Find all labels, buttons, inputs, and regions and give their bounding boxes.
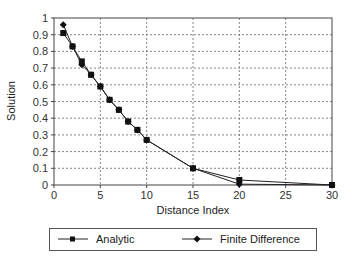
x-tick-label: 25: [280, 189, 292, 201]
x-axis-title: Distance Index: [157, 204, 230, 216]
y-tick-label: 0.5: [33, 96, 48, 108]
series-analytic: [60, 30, 335, 188]
y-axis-ticks: 00.10.20.30.40.50.60.70.80.91: [33, 12, 54, 191]
legend-label: Analytic: [96, 233, 135, 245]
y-tick-label: 1: [42, 12, 48, 24]
square-marker-icon: [58, 233, 88, 245]
chart-legend: Analytic Finite Difference: [49, 228, 317, 251]
line-chart: 00.10.20.30.40.50.60.70.80.91 0510152025…: [0, 0, 353, 228]
x-tick-label: 5: [97, 189, 103, 201]
y-axis-title: Solution: [5, 81, 17, 121]
y-tick-label: 0.6: [33, 79, 48, 91]
y-tick-label: 0.4: [33, 112, 48, 124]
y-tick-label: 0.3: [33, 129, 48, 141]
y-tick-label: 0: [42, 179, 48, 191]
x-tick-label: 10: [141, 189, 153, 201]
y-tick-label: 0.8: [33, 45, 48, 57]
data-series: [60, 21, 336, 188]
square-marker-icon: [60, 30, 66, 36]
legend-item-finite-difference: Finite Difference: [182, 233, 300, 245]
x-tick-label: 15: [187, 189, 199, 201]
diamond-marker-icon: [182, 233, 212, 245]
series-finite-difference: [60, 21, 336, 188]
y-tick-label: 0.2: [33, 146, 48, 158]
x-tick-label: 0: [51, 189, 57, 201]
x-tick-label: 30: [326, 189, 338, 201]
diamond-marker-icon: [60, 21, 67, 28]
y-tick-label: 0.9: [33, 29, 48, 41]
y-tick-label: 0.1: [33, 162, 48, 174]
y-tick-label: 0.7: [33, 62, 48, 74]
legend-label: Finite Difference: [220, 233, 300, 245]
x-tick-label: 20: [233, 189, 245, 201]
legend-item-analytic: Analytic: [58, 233, 135, 245]
grid-lines: [54, 18, 332, 185]
x-axis-ticks: 051015202530: [51, 185, 338, 201]
